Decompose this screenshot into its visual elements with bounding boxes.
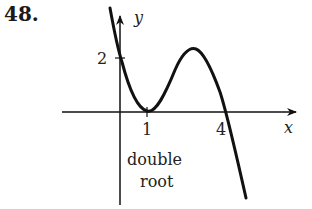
- y-axis-label: y: [133, 8, 144, 27]
- annotation-line-2: root: [140, 172, 174, 191]
- x-axis-label: x: [284, 118, 293, 137]
- x-tick-label-4: 4: [216, 120, 226, 139]
- polynomial-graph: y x 2 1 4 double root: [0, 0, 312, 209]
- y-tick-label-2: 2: [97, 49, 107, 68]
- annotation-line-1: double: [127, 150, 182, 169]
- polynomial-curve: [110, 8, 246, 198]
- x-tick-label-1: 1: [142, 120, 152, 139]
